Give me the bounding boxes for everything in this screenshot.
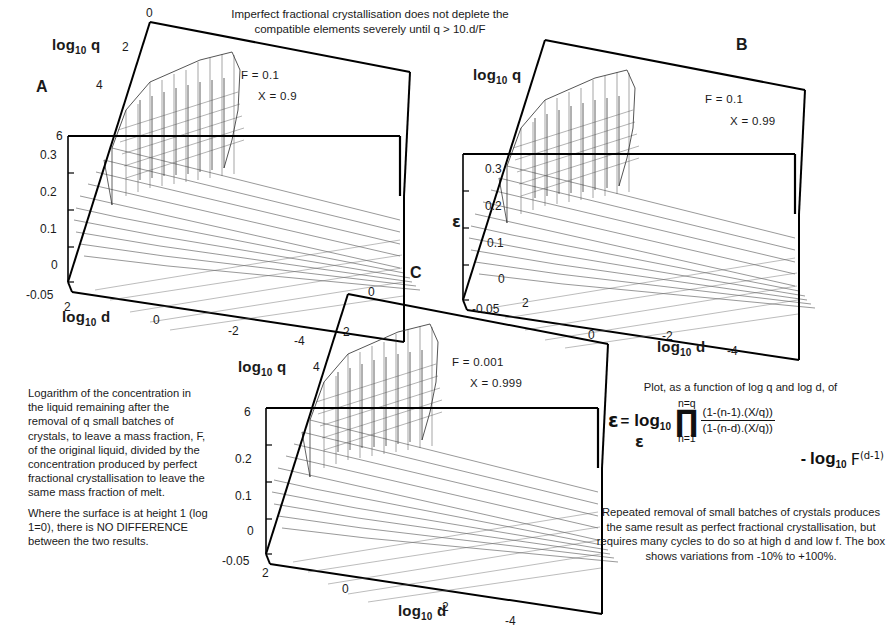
- pi-icon: ∏: [675, 408, 699, 433]
- caption-right-intro: Plot, as a function of log q and log d, …: [598, 380, 883, 394]
- panel-c-q-tick-2: 4: [313, 360, 320, 374]
- panel-b-d-tick-2: -2: [662, 329, 673, 343]
- panel-a-q-tick-1: 2: [122, 40, 129, 54]
- panel-c-z-tick-2: 0.1: [235, 489, 252, 503]
- axis-q-log-b: log: [473, 66, 496, 83]
- figure-canvas: Imperfect fractional crystallisation doe…: [0, 0, 888, 633]
- equation-fraction: (1-(n-1).(X/q)) (1-(n-d).(X/q)): [701, 406, 775, 435]
- axis-q-log-c: log: [238, 358, 261, 375]
- panel-a-q-tick-2: 4: [96, 78, 103, 92]
- panel-letter-b: B: [736, 36, 748, 54]
- panel-b-param-f: F = 0.1: [705, 93, 743, 105]
- equation-line-1: ε = log10 n=q ∏ n=1 (1-(n-1).(X/q)) (1-(…: [608, 398, 888, 443]
- product-lower-limit: n=1: [678, 433, 696, 443]
- equation-log: log10: [634, 411, 671, 431]
- panel-a-param-f: F = 0.1: [241, 69, 279, 81]
- axis-q-log: log: [52, 36, 75, 53]
- panel-a-z-tick-4: -0.05: [26, 288, 53, 302]
- caption-left-main: Logarithm of the concentration in the li…: [28, 386, 208, 500]
- axis-d-sub: 10: [85, 317, 97, 328]
- panel-c-q-tick-0: 0: [368, 285, 375, 299]
- product-operator: n=q ∏ n=1: [675, 398, 699, 443]
- figure-title: Imperfect fractional crystallisation doe…: [205, 7, 535, 36]
- axis-d-log-c: log: [398, 602, 421, 619]
- panel-a-d-tick-0: 2: [64, 300, 71, 314]
- equation-f-exponent: (d-1): [860, 449, 884, 460]
- panel-b-d-tick-0: 2: [522, 296, 529, 310]
- axis-q-var-b: q: [512, 66, 521, 83]
- equation-second-log-sub: 10: [836, 459, 847, 470]
- caption-left-secondary: Where the surface is at height 1 (log 1=…: [28, 506, 218, 549]
- fraction-denominator: (1-(n-d).(X/q)): [701, 421, 775, 435]
- panel-c-param-f: F = 0.001: [452, 356, 504, 368]
- panel-b-z-tick-1: 0.2: [485, 199, 502, 213]
- panel-letter-c: C: [410, 264, 422, 282]
- fraction-numerator: (1-(n-1).(X/q)): [701, 406, 775, 421]
- panel-b-d-tick-3: -4: [727, 344, 738, 358]
- panel-c-d-tick-0: 2: [262, 566, 269, 580]
- panel-b-param-x: X = 0.99: [730, 115, 776, 127]
- equation-equals: =: [621, 413, 630, 428]
- panel-c-d-tick-2: -2: [438, 600, 449, 614]
- panel-c-d-tick-3: -4: [505, 614, 516, 628]
- equation-epsilon: ε: [608, 411, 619, 430]
- equation-second-log-text: log: [810, 449, 836, 468]
- panel-a-d-tick-3: -4: [294, 334, 305, 348]
- equation-minus: -: [801, 450, 806, 468]
- panel-a-d-tick-1: 0: [153, 313, 160, 327]
- panel-a-z-tick-2: 0.1: [40, 222, 57, 236]
- panel-b-plot: [463, 40, 815, 360]
- equation-log-text: log: [634, 411, 660, 430]
- equation-second-log: log10: [810, 449, 847, 469]
- equation-line-2: - log10 F(d-1): [608, 449, 888, 469]
- panel-a-z-tick-0: 0.3: [40, 148, 57, 162]
- panel-a-q-tick-3: 6: [56, 129, 63, 143]
- panel-c-z-tick-3: 0: [247, 524, 254, 538]
- axis-q-sub: 10: [75, 45, 87, 56]
- panel-letter-a: A: [36, 78, 48, 96]
- panel-c-d-tick-1: 0: [342, 582, 349, 596]
- panel-b-d-tick-1: 0: [588, 328, 595, 342]
- panel-b-z-tick-2: 0.1: [487, 236, 504, 250]
- caption-right-main: Repeated removal of small batches of cry…: [596, 505, 886, 563]
- panel-a-d-tick-2: -2: [228, 324, 239, 338]
- axis-d-var-b: d: [696, 338, 705, 355]
- panel-c-q-tick-3: 6: [244, 405, 251, 419]
- panel-c-q-tick-1: 2: [343, 325, 350, 339]
- panel-c-z-tick-4: -0.05: [222, 554, 249, 568]
- panel-c-axis-q-title: log10 q: [238, 358, 286, 375]
- panel-b-z-tick-3: 0: [498, 272, 505, 286]
- axis-d-sub-c: 10: [421, 611, 433, 622]
- equation-f-term: F(d-1): [851, 450, 884, 469]
- panel-b-axis-q-title: log10 q: [473, 66, 521, 83]
- panel-c-z-tick-1: 0.2: [235, 452, 252, 466]
- panel-b-epsilon-label: ε: [452, 212, 461, 231]
- panel-a-z-tick-1: 0.2: [40, 185, 57, 199]
- axis-q-var: q: [91, 36, 100, 53]
- panel-a-axis-q-title: log10 q: [52, 36, 100, 53]
- axis-d-var: d: [101, 308, 110, 325]
- axis-d-sub-b: 10: [680, 347, 692, 358]
- axis-q-var-c: q: [277, 358, 286, 375]
- axis-q-sub-c: 10: [261, 367, 273, 378]
- panel-b-z-tick-4: -0.05: [472, 302, 499, 316]
- panel-a-z-tick-3: 0: [51, 258, 58, 272]
- panel-c-param-x: X = 0.999: [470, 377, 522, 389]
- equation-log-sub: 10: [660, 421, 671, 432]
- epsilon-equation: ε = log10 n=q ∏ n=1 (1-(n-1).(X/q)) (1-(…: [608, 398, 888, 469]
- panel-a-q-tick-0: 0: [146, 6, 153, 20]
- axis-q-sub-b: 10: [496, 75, 508, 86]
- panel-c-plot: [266, 294, 618, 614]
- panel-b-z-tick-0: 0.3: [485, 162, 502, 176]
- panel-a-param-x: X = 0.9: [258, 90, 297, 102]
- equation-f-base: F: [851, 450, 860, 469]
